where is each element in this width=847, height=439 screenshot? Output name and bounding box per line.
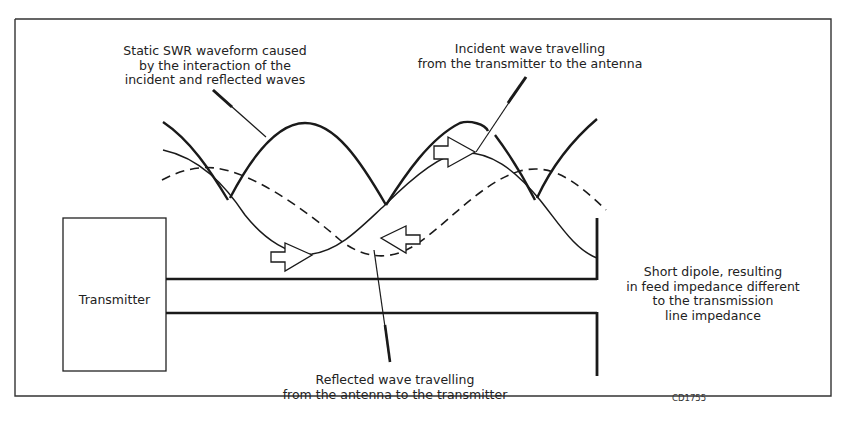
swr-waveform-segment-2: [230, 123, 386, 205]
swr-annotation-line: incident and reflected waves: [110, 73, 320, 88]
swr-waveform-segment-5: [537, 119, 597, 198]
reflected-annotation: Reflected wave travelling from the anten…: [260, 373, 530, 402]
incident-wave: [163, 150, 597, 258]
reflected-annotation-line: from the antenna to the transmitter: [260, 388, 530, 403]
swr-waveform-segment-4: [495, 135, 535, 200]
reflected-wave: [162, 168, 606, 256]
swr-leader-line-thick: [213, 90, 232, 107]
swr-waveform-segment-3: [386, 122, 488, 205]
incident-annotation-line: Incident wave travelling: [395, 42, 665, 57]
swr-annotation-line: by the interaction of the: [110, 59, 320, 74]
incident-leader-line-thick: [508, 77, 526, 103]
dipole-annotation-line: Short dipole, resulting: [608, 265, 818, 280]
swr-annotation: Static SWR waveform caused by the intera…: [110, 44, 320, 88]
dipole-annotation-line: in feed impedance different: [608, 280, 818, 295]
incident-arrow-icon: [434, 137, 475, 167]
swr-waveform-segment-1: [163, 122, 228, 200]
incident-annotation-line: from the transmitter to the antenna: [395, 57, 665, 72]
dipole-annotation-line: to the transmission: [608, 294, 818, 309]
reflected-annotation-line: Reflected wave travelling: [260, 373, 530, 388]
dipole-annotation: Short dipole, resulting in feed impedanc…: [608, 265, 818, 323]
incident-annotation: Incident wave travelling from the transm…: [395, 42, 665, 71]
reflected-arrow-icon: [381, 226, 420, 253]
figure-code: CD1755: [672, 393, 706, 403]
transmitter-label: Transmitter: [63, 293, 166, 308]
swr-annotation-line: Static SWR waveform caused: [110, 44, 320, 59]
reflected-leader-line-thick: [385, 325, 390, 362]
incident-arrow-icon: [271, 243, 312, 271]
dipole-annotation-line: line impedance: [608, 309, 818, 324]
